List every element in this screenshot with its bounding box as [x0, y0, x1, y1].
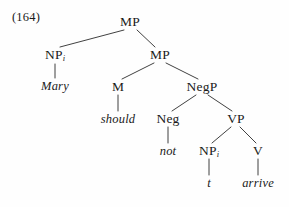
tree-edge-negp-to-vp [208, 95, 232, 111]
node-mp-inner: MP [150, 48, 170, 62]
tree-edge-mp_root-to-mp_inner [137, 30, 155, 47]
node-np-subject: NPi [45, 48, 65, 63]
tree-edge-mp_inner-to-negp [166, 63, 198, 79]
terminal-should: should [101, 113, 136, 126]
terminal-not: not [160, 145, 177, 158]
node-mp-root: MP [120, 15, 140, 29]
node-negp: NegP [187, 80, 218, 94]
terminal-mary-label: Mary [41, 79, 69, 93]
terminal-arrive: arrive [242, 177, 274, 190]
tree-edge-vp-to-np_trace [212, 127, 231, 143]
terminal-mary: Mary [41, 80, 69, 93]
node-v-label: V [253, 143, 263, 158]
terminal-not-label: not [160, 144, 177, 158]
node-neg-label: Neg [156, 111, 179, 126]
node-neg: Neg [156, 112, 179, 126]
node-vp-label: VP [227, 111, 245, 126]
terminal-trace-label: t [207, 176, 211, 190]
node-np-subject-index: i [63, 53, 65, 63]
tree-edge-negp-to-neg [172, 95, 196, 111]
node-negp-label: NegP [187, 79, 218, 94]
node-np-trace-label: NP [199, 143, 217, 158]
node-m-head-label: M [112, 79, 124, 94]
terminal-should-label: should [101, 112, 136, 126]
node-vp: VP [227, 112, 245, 126]
node-np-trace-index: i [217, 149, 219, 159]
node-mp-root-label: MP [120, 14, 140, 29]
tree-edge-mp_root-to-np_subj [60, 30, 124, 47]
node-np-subject-label: NP [45, 47, 63, 62]
tree-edge-mp_inner-to-m_head [122, 63, 154, 79]
node-np-trace: NPi [199, 144, 219, 159]
terminal-trace: t [207, 177, 211, 190]
node-mp-inner-label: MP [150, 47, 170, 62]
syntax-tree-figure: (164) MP NPi Mary MP M should NegP Neg n… [0, 0, 289, 207]
terminal-arrive-label: arrive [242, 176, 274, 190]
tree-edge-vp-to-v [240, 127, 256, 143]
node-m-head: M [112, 80, 124, 94]
node-v: V [253, 144, 263, 158]
